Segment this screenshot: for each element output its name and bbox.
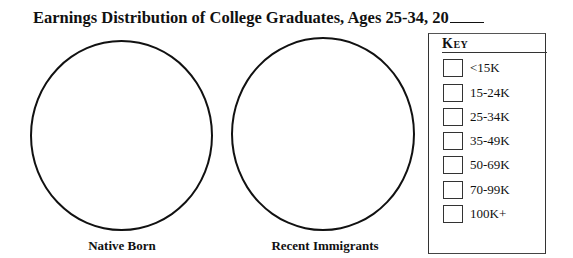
chart-title-text: Earnings Distribution of College Graduat… (33, 8, 449, 27)
legend-label: 70-99K (470, 182, 510, 198)
legend-label: 35-49K (470, 133, 510, 149)
year-blank (450, 8, 484, 23)
legend-item: 100K+ (443, 205, 506, 223)
legend-item: 35-49K (443, 132, 510, 150)
legend-key: Key <15K 15-24K 25-34K 35-49K 50-69K 70-… (428, 33, 546, 254)
pie-native-born (30, 40, 213, 231)
legend-label: 50-69K (470, 157, 510, 173)
legend-label: 25-34K (470, 109, 510, 125)
chart-title: Earnings Distribution of College Graduat… (33, 8, 484, 28)
legend-swatch (443, 108, 463, 126)
legend-label: 100K+ (470, 206, 506, 222)
legend-item: 70-99K (443, 181, 510, 199)
legend-title-underline (442, 52, 547, 53)
legend-label: 15-24K (470, 85, 510, 101)
legend-item: 50-69K (443, 156, 510, 174)
legend-swatch (443, 84, 463, 102)
legend-item: 15-24K (443, 84, 510, 102)
legend-title: Key (442, 36, 468, 52)
legend-swatch (443, 156, 463, 174)
legend-swatch (443, 181, 463, 199)
pie-recent-immigrants (231, 37, 415, 231)
legend-item: 25-34K (443, 108, 510, 126)
legend-swatch (443, 132, 463, 150)
legend-item: <15K (443, 59, 500, 77)
legend-swatch (443, 205, 463, 223)
legend-label: <15K (470, 60, 500, 76)
pie-label-native-born: Native Born (88, 238, 156, 254)
legend-swatch (443, 59, 463, 77)
pie-label-recent-immigrants: Recent Immigrants (271, 238, 378, 254)
